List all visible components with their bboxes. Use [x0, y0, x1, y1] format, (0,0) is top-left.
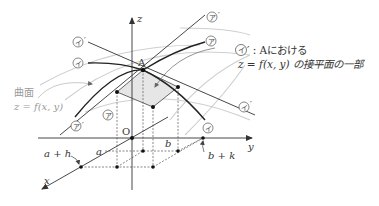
y-axis-label: y [247, 141, 254, 152]
curve-marks: ア ′ ア イ ′ イ ア ′ ア [71, 10, 252, 133]
svg-text:イ: イ [75, 60, 82, 68]
point-ah-0 [115, 165, 119, 169]
svg-text:ア: ア [209, 14, 216, 22]
point-ah-b [151, 165, 155, 169]
mark-a-prime-bottom: ア ′ [71, 120, 84, 131]
point-a-bk [176, 149, 180, 153]
tangent-line-a-prime [60, 15, 205, 135]
svg-text:ア: ア [73, 123, 80, 131]
svg-text:ア: ア [105, 112, 112, 120]
mark-i-left: イ [73, 58, 83, 68]
z-axis-label: z [136, 13, 143, 24]
a-plus-h-label: a + h [44, 148, 71, 159]
svg-text:イ: イ [238, 46, 245, 55]
point-a-b [141, 149, 145, 153]
svg-text:イ: イ [75, 39, 82, 47]
surface-curve-top [180, 28, 250, 35]
point-bk [201, 136, 205, 140]
mark-a-top: ア [206, 36, 216, 46]
svg-text:′: ′ [84, 35, 86, 44]
a-label: a [96, 146, 102, 157]
svg-text:′: ′ [82, 120, 84, 129]
svg-text:′: ′ [218, 10, 220, 19]
diagram-canvas: z y x O A a a + h b b + k 曲面 z = f(x, y)… [0, 0, 379, 206]
svg-text:ア: ア [208, 38, 215, 46]
surface-pointer [38, 83, 92, 98]
point-plane-left [115, 90, 119, 94]
point-A-label: A [137, 57, 146, 68]
mark-i-prime-left: イ ′ [73, 35, 86, 47]
mark-a-bottom: ア [103, 110, 113, 120]
annotation-line2: z = f(x, y) の接平面の一部 [237, 58, 365, 70]
origin-label: O [122, 126, 130, 137]
point-origin [130, 136, 134, 140]
point-ah [79, 165, 83, 169]
x-axis-label: x [44, 175, 50, 186]
surface-label-line1: 曲面 [14, 87, 34, 98]
annotation-line1: ′ : Aにおける [247, 44, 307, 56]
mark-i-bottom: イ [203, 123, 213, 133]
point-plane-right [176, 85, 180, 89]
a-plus-h-pointer [71, 156, 79, 164]
point-plane-bottom [151, 105, 155, 109]
mark-i-prime-right: イ ′ [239, 99, 252, 112]
tangent-plane-annotation: イ ′ : Aにおける z = f(x, y) の接平面の一部 [236, 44, 365, 70]
b-plus-k-pointer [203, 141, 204, 152]
point-A [141, 68, 145, 72]
mark-a-prime-top: ア ′ [207, 10, 220, 22]
svg-text:イ: イ [205, 125, 212, 133]
b-label: b [165, 138, 171, 149]
svg-text:イ: イ [241, 104, 248, 112]
tangent-plane-diagram: z y x O A a a + h b b + k 曲面 z = f(x, y)… [0, 0, 379, 206]
svg-text:′: ′ [250, 99, 252, 108]
surface-label-line2: z = f(x, y) [13, 101, 63, 112]
tangent-plane-patch [117, 70, 178, 107]
b-plus-k-label: b + k [208, 150, 235, 161]
